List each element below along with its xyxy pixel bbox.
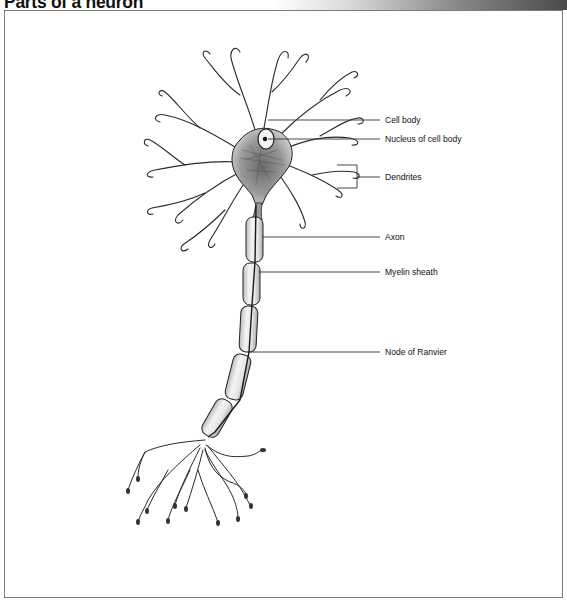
myelin-segments [199,217,263,440]
label-nucleus-of-cell-body: Nucleus of cell body [385,133,462,144]
label-cell-body: Cell body [385,114,421,125]
neuron-illustration [0,0,567,603]
label-node-of-ranvier: Node of Ranvier [385,346,447,357]
label-axon: Axon [385,231,404,242]
label-dendrites: Dendrites [385,171,422,182]
terminal-buttons [126,448,266,526]
label-myelin-sheath: Myelin sheath [385,266,438,277]
